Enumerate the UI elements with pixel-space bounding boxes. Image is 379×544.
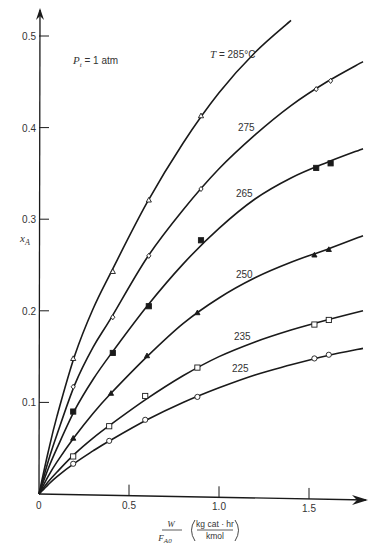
curve-label-235: 235 [234,331,251,342]
x-axis-label: W FA0 kg cat · hr kmol [157,519,238,544]
svg-text:kg cat · hr: kg cat · hr [196,519,234,529]
open-square-marker-icon [326,317,331,322]
filled-square-marker-icon [314,165,319,170]
open-triangle-marker-icon [146,197,151,202]
x-tick-label: 1.5 [302,503,316,514]
origin-label: 0 [36,500,42,511]
curve-label-250: 250 [236,269,253,280]
conversion-vs-space-time-chart: 0.10.20.30.40.50.51.01.5 T = 285°C275265… [0,0,379,544]
filled-square-marker-icon [110,350,115,355]
open-circle-marker-icon [312,356,317,361]
svg-text:W: W [167,519,176,529]
open-square-marker-icon [312,322,317,327]
curve-235 [39,311,363,494]
y-tick-label: 0.4 [22,123,36,134]
filled-square-marker-icon [198,238,203,243]
svg-text:kmol: kmol [206,531,224,541]
open-square-marker-icon [143,393,148,398]
data-markers [71,78,334,466]
x-tick-label: 1.0 [212,501,226,512]
x-axis-line [39,494,366,500]
curve-285 [39,20,291,494]
y-axis-label: xA [19,232,30,247]
curve-labels: T = 285°C275265250235225 [210,48,255,374]
open-circle-marker-icon [143,417,148,422]
open-circle-marker-icon [71,461,76,466]
svg-text:FA0: FA0 [157,533,172,544]
open-circle-marker-icon [326,352,331,357]
curve-label-285: T = 285°C [210,48,255,60]
curve-label-225: 225 [232,363,249,374]
curve-275 [39,62,363,494]
open-circle-marker-icon [195,394,200,399]
x-tick-label: 0.5 [122,500,136,511]
y-axis-line [39,10,40,494]
y-tick-label: 0.3 [22,214,36,225]
open-square-marker-icon [195,365,200,370]
open-circle-marker-icon [107,438,112,443]
filled-square-marker-icon [146,304,151,309]
filled-square-marker-icon [71,409,76,414]
pressure-annotation: Pt = 1 atm [72,54,118,69]
open-square-marker-icon [71,454,76,459]
y-tick-label: 0.1 [22,397,36,408]
curve-label-275: 275 [238,122,255,133]
y-tick-label: 0.5 [22,31,36,42]
filled-square-marker-icon [328,161,333,166]
open-square-marker-icon [107,424,112,429]
curve-label-265: 265 [236,188,253,199]
y-tick-label: 0.2 [22,306,36,317]
